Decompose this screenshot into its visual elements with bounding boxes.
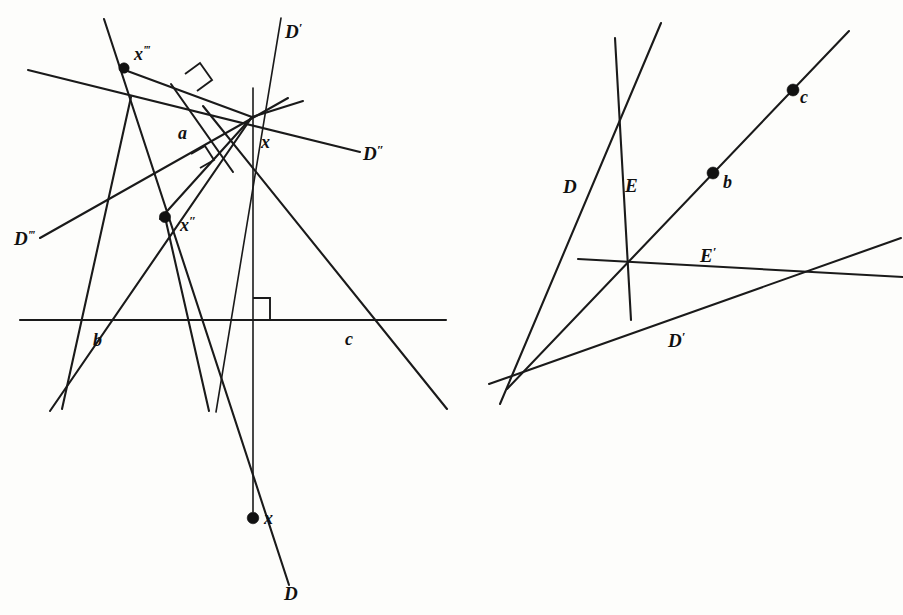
label-D-base: D	[283, 583, 298, 604]
label-E: E	[624, 175, 638, 196]
label-a: a	[178, 123, 187, 143]
label-E-prime-prime-marks: ′	[713, 244, 717, 259]
label-x-double-prime-base: x	[179, 215, 189, 235]
figure-background	[0, 0, 903, 615]
label-E-prime-base: E	[699, 245, 713, 266]
label-b: b	[93, 330, 102, 350]
label-x-bottom-base: x	[263, 508, 273, 528]
label-E-base: E	[624, 175, 638, 196]
label-c: c	[800, 87, 808, 107]
b-point	[707, 167, 719, 179]
label-D-prime-base: D	[667, 330, 682, 351]
label-x-double-prime-prime-marks: ″	[189, 213, 196, 228]
label-c: c	[345, 329, 353, 349]
label-D-prime-prime-marks: ′	[682, 329, 686, 344]
label-D-double-prime-base: D	[362, 143, 377, 164]
label-x-triple-prime-prime-marks: ‴	[143, 42, 151, 57]
label-D: D	[283, 583, 298, 604]
x-triple-prime-point	[119, 63, 129, 73]
label-D-prime-base: D	[284, 21, 299, 42]
geometric-diagram: D′D″D‴Dabcxx″x‴x DEE′D′bc	[0, 0, 903, 615]
label-c-base: c	[800, 87, 808, 107]
label-x-vertex-base: x	[260, 132, 270, 152]
label-x-vertex: x	[260, 132, 270, 152]
label-D-triple-prime-prime-marks: ‴	[28, 227, 36, 242]
label-D-triple-prime-base: D	[13, 228, 28, 249]
label-D-base: D	[562, 176, 577, 197]
label-b-base: b	[723, 172, 732, 192]
label-D: D	[562, 176, 577, 197]
label-c-base: c	[345, 329, 353, 349]
label-D-double-prime-prime-marks: ″	[377, 142, 384, 157]
x-double-prime-point	[159, 211, 170, 222]
label-x-bottom: x	[263, 508, 273, 528]
x-bottom-point	[247, 512, 259, 524]
label-a-base: a	[178, 123, 187, 143]
c-point	[787, 84, 799, 96]
label-b-base: b	[93, 330, 102, 350]
label-x-triple-prime-base: x	[133, 44, 143, 64]
figure-root: D′D″D‴Dabcxx″x‴x DEE′D′bc	[0, 0, 903, 615]
label-D-prime-prime-marks: ′	[299, 20, 303, 35]
label-b: b	[723, 172, 732, 192]
